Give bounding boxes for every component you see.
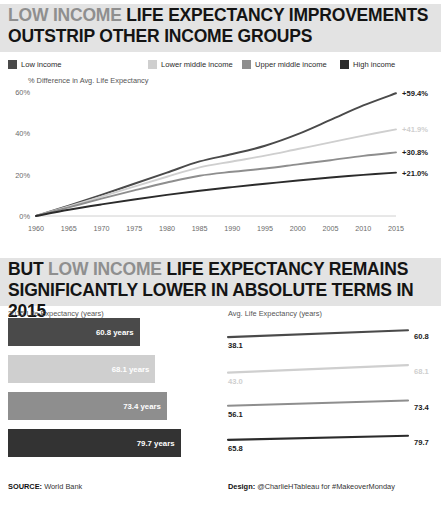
legend-swatch-icon <box>242 60 251 69</box>
legend-item-low-income[interactable]: Low income <box>8 58 62 71</box>
slope-series-lower-middle-income <box>228 365 408 372</box>
bar-high-income[interactable]: 79.7 years <box>8 429 181 457</box>
slope-end-label: 60.8 <box>414 332 429 341</box>
x-axis-tick-label: 1995 <box>257 224 273 233</box>
line-series-low-income <box>36 93 396 216</box>
slope-series-high-income <box>228 436 408 440</box>
bar-lower-middle-income[interactable]: 68.1 years <box>8 355 155 383</box>
slope-start-label: 65.8 <box>228 444 243 453</box>
top-headline-emphasis: LOW INCOME <box>8 5 122 25</box>
line-end-label: +59.4% <box>402 89 428 98</box>
x-axis-tick-label: 1970 <box>93 224 109 233</box>
slope-series-upper-middle-income <box>228 401 408 406</box>
x-axis-tick-label: 1975 <box>126 224 142 233</box>
bar-value-label: 68.1 years <box>112 365 150 374</box>
y-axis-tick-label: 40% <box>0 129 30 138</box>
slope-chart-canvas <box>222 318 441 466</box>
line-series-high-income <box>36 173 396 216</box>
mid-headline-emphasis: LOW INCOME <box>48 259 162 279</box>
slope-start-label: 43.0 <box>228 377 243 386</box>
y-axis-tick-label: 0% <box>0 212 30 221</box>
y-axis-tick-label: 20% <box>0 170 30 179</box>
x-axis-tick-label: 2005 <box>323 224 339 233</box>
design-value: @CharlieHTableau for #MakeoverMonday <box>257 482 395 491</box>
x-axis-tick-label: 2010 <box>355 224 371 233</box>
legend-swatch-icon <box>8 60 17 69</box>
bar-value-label: 60.8 years <box>96 328 134 337</box>
design-label: Design: <box>228 482 255 491</box>
slope-panel-title: Avg. Life Expectancy (years) <box>228 309 322 318</box>
slope-start-label: 38.1 <box>228 341 243 350</box>
x-axis-tick-label: 1985 <box>192 224 208 233</box>
bar-chart-2015-life-expectancy: 60.8 years68.1 years73.4 years79.7 years <box>0 318 200 466</box>
source-label: SOURCE: <box>8 482 42 491</box>
legend-item-label: High income <box>353 60 395 69</box>
line-end-label: +41.9% <box>402 125 428 134</box>
slope-chart-avg-life-expectancy: 38.160.843.068.156.173.465.879.7 <box>222 318 441 466</box>
mid-headline-but: BUT <box>8 259 43 279</box>
bar-value-label: 73.4 years <box>123 402 161 411</box>
legend-item-label: Lower middle income <box>161 60 233 69</box>
legend-swatch-icon <box>340 60 349 69</box>
line-chart-canvas <box>0 86 441 236</box>
source-text: SOURCE: World Bank <box>8 482 82 491</box>
x-axis-tick-label: 2015 <box>388 224 404 233</box>
legend-item-label: Upper middle income <box>255 60 327 69</box>
line-end-label: +30.8% <box>402 148 428 157</box>
x-axis-tick-label: 1960 <box>28 224 44 233</box>
x-axis-tick-label: 2000 <box>290 224 306 233</box>
x-axis-tick-label: 1980 <box>159 224 175 233</box>
legend-swatch-icon <box>148 60 157 69</box>
slope-end-label: 79.7 <box>414 438 429 447</box>
infographic-root: LOW INCOME LIFE EXPECTANCY IMPROVEMENTS … <box>0 0 441 508</box>
top-chart-axis-title: % Difference in Avg. Life Expectancy <box>28 76 149 85</box>
x-axis-tick-label: 1990 <box>224 224 240 233</box>
bar-upper-middle-income[interactable]: 73.4 years <box>8 392 167 420</box>
y-axis-tick-label: 60% <box>0 88 30 97</box>
slope-end-label: 68.1 <box>414 367 429 376</box>
legend-item-upper-middle-income[interactable]: Upper middle income <box>242 58 327 71</box>
top-headline: LOW INCOME LIFE EXPECTANCY IMPROVEMENTS … <box>8 5 433 47</box>
x-axis-tick-label: 1965 <box>61 224 77 233</box>
footer: SOURCE: World Bank Design: @CharlieHTabl… <box>0 482 441 502</box>
source-value: World Bank <box>44 482 82 491</box>
design-credit: Design: @CharlieHTableau for #MakeoverMo… <box>228 482 395 491</box>
legend-item-lower-middle-income[interactable]: Lower middle income <box>148 58 233 71</box>
slope-start-label: 56.1 <box>228 410 243 419</box>
bar-panel-title: 2015 Life Expectancy (years) <box>8 309 104 318</box>
bar-low-income[interactable]: 60.8 years <box>8 318 140 346</box>
bar-value-label: 79.7 years <box>137 439 175 448</box>
line-end-label: +21.0% <box>402 168 428 177</box>
legend-item-high-income[interactable]: High income <box>340 58 395 71</box>
line-chart-pct-difference: 0%20%40%60%19601965197019751980198519901… <box>0 86 441 236</box>
slope-series-low-income <box>228 330 408 337</box>
legend-item-label: Low income <box>21 60 62 69</box>
slope-end-label: 73.4 <box>414 403 429 412</box>
legend: Low incomeLower middle incomeUpper middl… <box>0 58 441 72</box>
